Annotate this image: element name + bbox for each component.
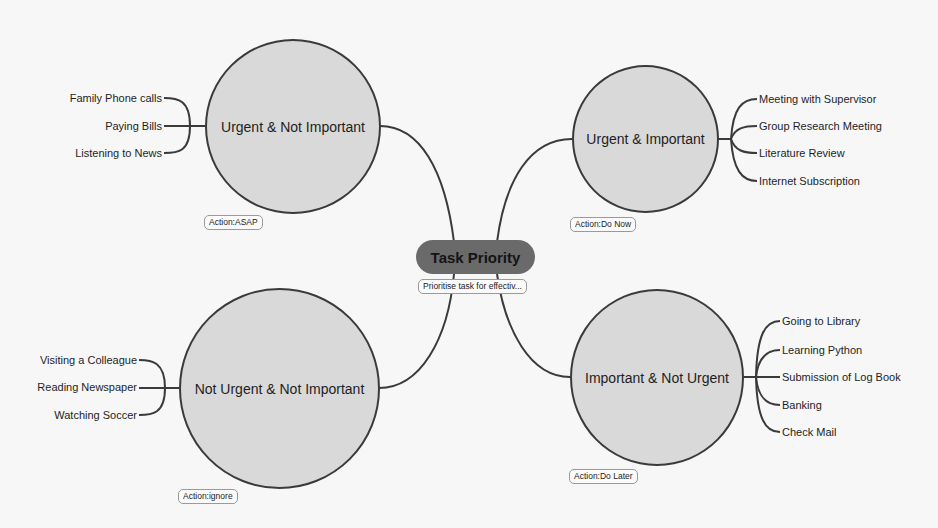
topic-title: Urgent & Not Important <box>221 119 365 135</box>
subtopic-item[interactable]: Visiting a Colleague <box>40 353 137 367</box>
topic-important-not-urgent[interactable]: Important & Not Urgent <box>570 289 744 466</box>
subtopic-item[interactable]: Banking <box>782 398 822 412</box>
central-topic[interactable]: Task Priority <box>416 240 535 274</box>
subtopic-item[interactable]: Group Research Meeting <box>759 119 882 133</box>
subtopic-item[interactable]: Paying Bills <box>105 119 162 133</box>
central-topic-title: Task Priority <box>431 249 521 266</box>
topic-urgent-important[interactable]: Urgent & Important <box>572 65 719 213</box>
topic-title: Not Urgent & Not Important <box>195 381 365 397</box>
topic-title: Important & Not Urgent <box>585 370 729 386</box>
action-note-do-now[interactable]: Action:Do Now <box>570 217 636 232</box>
subtopic-item[interactable]: Family Phone calls <box>70 91 162 105</box>
subtopic-item[interactable]: Watching Soccer <box>54 408 137 422</box>
subtopic-item[interactable]: Listening to News <box>75 146 162 160</box>
subtopic-item[interactable]: Check Mail <box>782 425 836 439</box>
action-note-do-later[interactable]: Action:Do Later <box>569 469 638 484</box>
central-topic-note[interactable]: Prioritise task for effectiv... <box>418 279 527 294</box>
topic-urgent-not-important[interactable]: Urgent & Not Important <box>205 39 381 214</box>
subtopic-item[interactable]: Reading Newspaper <box>37 380 137 394</box>
subtopic-item[interactable]: Learning Python <box>782 343 862 357</box>
action-note-ignore[interactable]: Action:ignore <box>178 489 238 504</box>
subtopic-item[interactable]: Submission of Log Book <box>782 370 901 384</box>
subtopic-item[interactable]: Internet Subscription <box>759 174 860 188</box>
subtopic-item[interactable]: Literature Review <box>759 146 845 160</box>
subtopic-item[interactable]: Going to Library <box>782 314 860 328</box>
topic-title: Urgent & Important <box>586 131 704 147</box>
topic-not-urgent-not-important[interactable]: Not Urgent & Not Important <box>179 288 380 489</box>
action-note-asap[interactable]: Action:ASAP <box>204 215 263 230</box>
subtopic-item[interactable]: Meeting with Supervisor <box>759 92 876 106</box>
